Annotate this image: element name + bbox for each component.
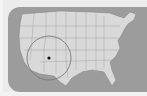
us-land [19, 11, 136, 86]
location-marker[interactable] [47, 56, 50, 59]
us-map[interactable] [0, 0, 147, 96]
